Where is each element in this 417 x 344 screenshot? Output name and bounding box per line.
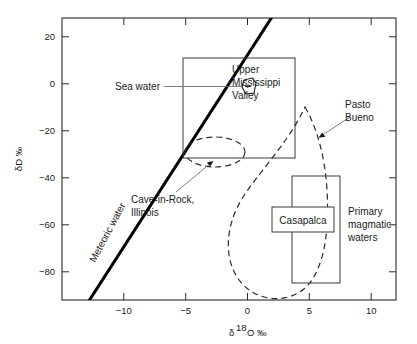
cave-in-rock-leader: [176, 163, 211, 192]
pasto-bueno-label-line1: Pasto: [345, 99, 371, 110]
x-tick-label: −10: [116, 305, 132, 316]
y-tick-label: 20: [44, 31, 55, 42]
x-tick-label: 0: [245, 305, 250, 316]
x-axis-major-ticks: [124, 18, 371, 300]
cave-in-rock-label: Cave-in-Rock, Illinois: [131, 194, 194, 218]
x-tick-label: 5: [307, 305, 312, 316]
x-tick-label: −5: [180, 305, 191, 316]
magmatic-label-line1: Primary: [348, 206, 382, 217]
cave-in-rock-label-line1: Cave-in-Rock,: [131, 194, 194, 205]
casapalca-label: Casapalca: [279, 215, 327, 226]
x-axis-title-element: O ‰: [247, 327, 267, 338]
magmatic-label-line2: magmatic: [348, 219, 391, 230]
y-tick-label: −60: [39, 219, 55, 230]
cave-in-rock-label-line2: Illinois: [131, 207, 159, 218]
y-axis-tick-labels: 20 0 −20 −40 −60 −80: [39, 31, 55, 277]
umv-label-line1: Upper: [232, 64, 260, 75]
pasto-bueno-curve: [228, 107, 327, 299]
pasto-bueno-label-line2: Bueno: [345, 112, 374, 123]
cave-in-rock-ellipse: [185, 137, 245, 167]
y-tick-label: −20: [39, 125, 55, 136]
sea-water-label: Sea water: [115, 81, 161, 92]
isotope-chart-figure: and Sensors 67: [0, 0, 417, 344]
meteoric-water-label: Meteoric water: [87, 200, 128, 264]
y-tick-label: 0: [50, 78, 55, 89]
magmatic-label-line3: waters: [347, 232, 377, 243]
meteoric-water-line: [81, 10, 277, 314]
x-tick-label: 10: [366, 305, 377, 316]
chart-svg: −10 −5 0 5 10 20 0 −20 −40 −60 −80 δD ‰ …: [0, 0, 417, 344]
plot-frame: [62, 18, 396, 300]
y-axis-major-ticks: [62, 37, 396, 272]
y-axis-title: δD ‰: [13, 146, 24, 171]
x-axis-title-delta: δ: [229, 327, 234, 338]
x-axis-title-superscript: 18: [236, 322, 247, 333]
pasto-bueno-label: Pasto Bueno: [345, 99, 374, 123]
y-tick-label: −40: [39, 172, 55, 183]
primary-magmatic-waters-label: Primary magmatic waters: [347, 206, 391, 243]
x-axis-tick-labels: −10 −5 0 5 10: [116, 305, 377, 316]
x-axis-title: δ 18 O ‰: [229, 322, 267, 338]
y-tick-label: −80: [39, 266, 55, 277]
